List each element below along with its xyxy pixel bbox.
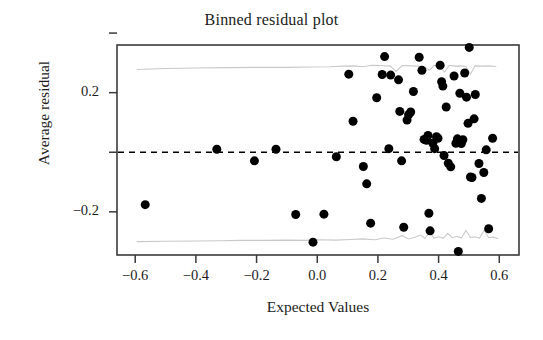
data-point	[308, 238, 317, 247]
data-point	[250, 156, 259, 165]
data-point	[384, 144, 393, 153]
y-axis-ticks	[109, 33, 117, 212]
data-point	[467, 173, 476, 182]
y-tick-label: 0.2	[39, 83, 99, 100]
lower-confidence-band	[137, 230, 498, 241]
data-point	[430, 144, 439, 153]
data-point	[433, 134, 442, 143]
data-point	[380, 52, 389, 61]
data-point	[488, 134, 497, 143]
plot-frame	[117, 45, 519, 255]
binned-residual-plot-figure: Binned residual plot Average residual Ex…	[0, 0, 543, 340]
x-tick-label: −0.4	[166, 267, 226, 284]
x-tick-label: 0.6	[469, 267, 529, 284]
data-point	[366, 219, 375, 228]
data-point	[397, 156, 406, 165]
data-point	[477, 194, 486, 203]
data-point	[462, 93, 471, 102]
data-point	[362, 179, 371, 188]
data-point	[386, 71, 395, 80]
data-point	[395, 107, 404, 116]
data-point	[423, 131, 432, 140]
data-point	[378, 70, 387, 79]
data-point	[291, 210, 300, 219]
data-point	[344, 70, 353, 79]
x-axis-ticks	[135, 255, 499, 263]
data-point	[442, 102, 451, 111]
data-point	[212, 145, 221, 154]
data-point	[450, 71, 459, 80]
data-point	[426, 226, 435, 235]
data-point	[424, 209, 433, 218]
data-point	[359, 162, 368, 171]
data-point	[319, 210, 328, 219]
data-point	[399, 223, 408, 232]
data-point	[482, 145, 491, 154]
data-point	[436, 61, 445, 70]
data-point	[438, 82, 447, 91]
data-point	[415, 53, 424, 62]
data-point	[406, 108, 415, 117]
data-point	[440, 151, 449, 160]
data-point	[471, 90, 480, 99]
data-point	[417, 66, 426, 75]
data-point	[470, 114, 479, 123]
x-tick-label: −0.6	[105, 267, 165, 284]
x-tick-label: 0.4	[409, 267, 469, 284]
data-point	[460, 69, 469, 78]
data-point	[409, 87, 418, 96]
x-tick-label: 0.0	[287, 267, 347, 284]
data-point	[474, 159, 483, 168]
data-point	[349, 117, 358, 126]
plot-area	[0, 0, 543, 340]
data-point	[271, 145, 280, 154]
data-point	[446, 162, 455, 171]
x-tick-label: −0.2	[227, 267, 287, 284]
data-point	[458, 135, 467, 144]
data-point	[479, 168, 488, 177]
data-points	[141, 43, 497, 256]
data-point	[141, 200, 150, 209]
y-tick-label: −0.2	[39, 202, 99, 219]
data-point	[484, 224, 493, 233]
data-point	[394, 75, 403, 84]
data-point	[465, 43, 474, 52]
x-tick-label: 0.2	[348, 267, 408, 284]
data-point	[372, 93, 381, 102]
data-point	[454, 247, 463, 256]
data-point	[332, 152, 341, 161]
